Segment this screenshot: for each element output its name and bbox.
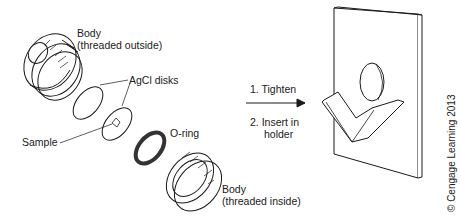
- label-body-outside-line2: (threaded outside): [77, 39, 162, 51]
- label-body-inside-line2: (threaded inside): [222, 195, 301, 207]
- label-o-ring: O-ring: [170, 127, 199, 139]
- agcl-disk-lower: [96, 102, 137, 145]
- arrow-head: [297, 99, 305, 107]
- label-sample: Sample: [22, 136, 58, 148]
- o-ring-part: [130, 127, 170, 169]
- body-threaded-inside-part: [157, 144, 232, 221]
- label-body-inside-line1: Body: [222, 183, 246, 195]
- agcl-disk-upper: [67, 81, 108, 124]
- step-2-insert-line1: 2. Insert in: [250, 116, 299, 128]
- step-2-insert-line2: holder: [264, 128, 293, 140]
- label-body-outside-line1: Body: [77, 27, 101, 39]
- label-agcl-disks: AgCl disks: [129, 74, 179, 86]
- copyright-notice: © Cengage Learning 2013: [446, 95, 457, 212]
- step-1-tighten: 1. Tighten: [250, 83, 296, 95]
